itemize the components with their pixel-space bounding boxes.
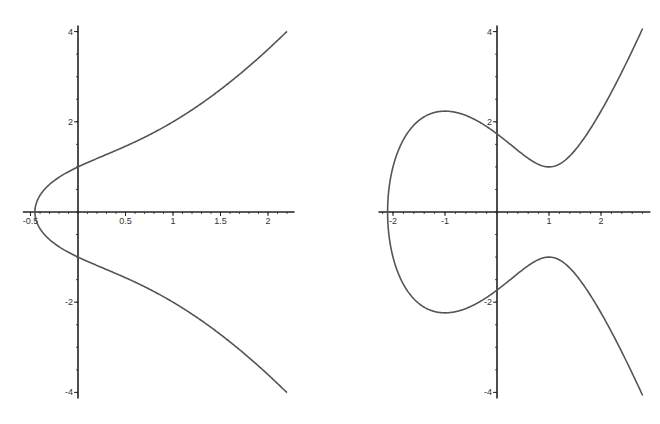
elliptic-curves-figure: -0.50.511.5242-2-4 -2-11242-2-4 (0, 0, 660, 424)
x-tick-label: -1 (441, 216, 449, 226)
x-tick-label: 1 (546, 216, 551, 226)
x-tick-label: -2 (389, 216, 397, 226)
x-tick-label: 0.5 (119, 216, 132, 226)
x-tick-label: 1.5 (214, 216, 227, 226)
y-tick-label: 2 (487, 117, 492, 127)
x-tick-label: 1 (170, 216, 175, 226)
y-tick-label: 4 (68, 27, 73, 37)
x-tick-label: 2 (598, 216, 603, 226)
y-tick-label: -2 (65, 297, 73, 307)
y-tick-label: 4 (487, 27, 492, 37)
left-plot: -0.50.511.5242-2-4 (23, 26, 295, 399)
right-plot: -2-11242-2-4 (378, 26, 650, 399)
y-tick-label: 2 (68, 117, 73, 127)
y-tick-label: -4 (484, 387, 492, 397)
x-tick-label: 2 (265, 216, 270, 226)
y-tick-label: -4 (65, 387, 73, 397)
